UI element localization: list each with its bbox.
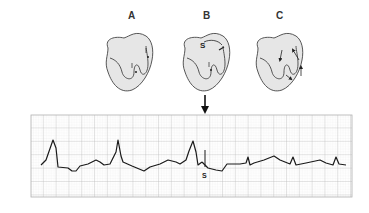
ecg-grid (31, 115, 352, 197)
panel-label-b: B (203, 10, 210, 21)
diagram-canvas: S S (0, 0, 369, 213)
stimulus-label-heart: S (200, 41, 206, 50)
down-arrow-icon (201, 95, 209, 114)
heart-diagram-c (256, 33, 303, 90)
panel-label-a: A (128, 10, 135, 21)
heart-diagram-b (183, 33, 230, 90)
heart-diagram-a (106, 33, 153, 90)
stimulus-label-ecg: S (202, 172, 207, 179)
panel-label-c: C (276, 10, 283, 21)
